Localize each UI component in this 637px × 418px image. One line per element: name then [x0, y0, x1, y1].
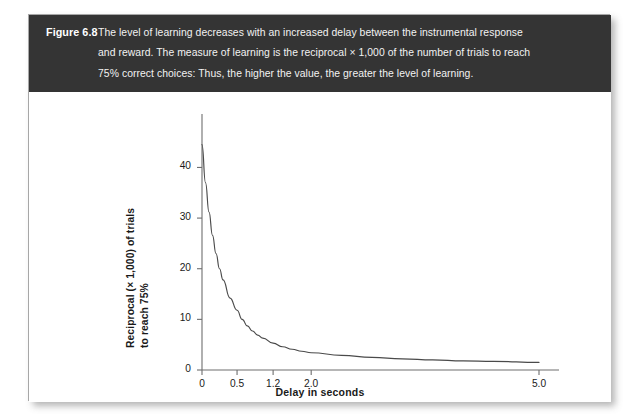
- caption-line-2-text: and reward. The measure of learning is t…: [98, 47, 530, 58]
- caption-line-2: and reward. The measure of learning is t…: [46, 43, 595, 63]
- figure-root: Figure 6.8The level of learning decrease…: [0, 0, 637, 418]
- caption-line-1-text: The level of learning decreases with an …: [98, 27, 523, 38]
- y-tick-label: 10: [165, 312, 191, 323]
- chart-canvas: [29, 92, 611, 402]
- figure-caption-text: Figure 6.8The level of learning decrease…: [46, 22, 595, 84]
- caption-line-3-text: 75% correct choices: Thus, the higher th…: [98, 68, 473, 79]
- caption-line-3: 75% correct choices: Thus, the higher th…: [46, 64, 595, 84]
- y-axis-label-line-2: to reach 75%: [139, 283, 150, 348]
- y-axis-label-line-1: Reciprocal (× 1,000) of trials: [125, 208, 136, 348]
- plot-area: Reciprocal (× 1,000) of trials to reach …: [29, 92, 611, 402]
- figure-number-label: Figure 6.8: [46, 22, 98, 42]
- y-tick-label: 20: [165, 262, 191, 273]
- caption-line-1: Figure 6.8The level of learning decrease…: [46, 22, 595, 43]
- y-tick-label: 40: [165, 160, 191, 171]
- x-axis-label: Delay in seconds: [29, 386, 611, 398]
- figure-card: Figure 6.8The level of learning decrease…: [28, 14, 610, 401]
- figure-caption-banner: Figure 6.8The level of learning decrease…: [29, 15, 611, 92]
- y-tick-label: 30: [165, 211, 191, 222]
- y-tick-label: 0: [165, 363, 191, 374]
- y-axis-label-group: Reciprocal (× 1,000) of trials to reach …: [125, 132, 165, 352]
